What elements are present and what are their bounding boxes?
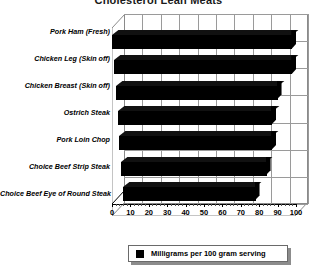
x-axis-minor-tick (267, 204, 268, 206)
x-axis-minor-tick (160, 204, 161, 206)
x-axis-tick (241, 204, 242, 207)
bar (116, 81, 284, 100)
x-axis-minor-tick (215, 204, 216, 206)
x-axis-minor-tick (248, 204, 249, 206)
bar-front-face (112, 35, 292, 49)
bar (112, 30, 298, 49)
bar-front-face (114, 60, 292, 74)
bar (119, 131, 278, 150)
x-axis-minor-tick (175, 204, 176, 206)
category-axis-labels: Pork Ham (Fresh)Chicken Leg (Skin off)Ch… (0, 18, 112, 212)
x-axis-minor-tick (274, 204, 275, 206)
x-axis-minor-tick (208, 204, 209, 206)
bar (118, 106, 279, 125)
x-axis-tick (112, 204, 113, 207)
x-axis-origin-diagonal (112, 190, 126, 205)
x-axis-minor-tick (263, 204, 264, 206)
bar-end-cap (266, 157, 271, 176)
plot-area (112, 14, 308, 216)
x-axis-minor-tick (156, 204, 157, 206)
x-axis-minor-tick (123, 204, 124, 206)
category-label: Ostrich Steak (0, 109, 110, 117)
x-axis-minor-tick (256, 204, 257, 206)
bar-front-face (121, 162, 266, 176)
x-axis-minor-tick (244, 204, 245, 206)
x-axis-minor-tick (197, 204, 198, 206)
x-axis-minor-tick (211, 204, 212, 206)
category-label: Chicken Breast (Skin off) (0, 82, 110, 90)
bar-front-face (119, 136, 272, 150)
x-axis-minor-tick (178, 204, 179, 206)
category-label: Choice Beef Strip Steak (0, 163, 110, 171)
x-axis-minor-tick (141, 204, 142, 206)
chart-legend: Milligrams per 100 gram serving (128, 245, 288, 262)
x-axis-minor-tick (285, 204, 286, 206)
bar-end-cap (291, 30, 296, 49)
x-axis-minor-tick (230, 204, 231, 206)
bar-end-cap (271, 106, 276, 125)
bar (121, 157, 272, 176)
x-axis-minor-tick (200, 204, 201, 206)
bars-layer (112, 14, 308, 216)
category-label: Choice Beef Eye of Round Steak (0, 190, 110, 198)
bar-end-cap (255, 182, 260, 201)
x-axis-minor-tick (182, 204, 183, 206)
x-axis-tick (204, 204, 205, 207)
x-axis-minor-tick (145, 204, 146, 206)
legend-swatch-icon (136, 250, 144, 258)
x-axis-minor-tick (134, 204, 135, 206)
category-label: Pork Ham (Fresh) (0, 28, 110, 36)
bar-end-cap (291, 55, 296, 74)
bar-end-cap (277, 81, 282, 100)
x-axis-tick-label: 100 (285, 208, 307, 217)
x-axis-minor-tick (270, 204, 271, 206)
bar-front-face (118, 111, 273, 125)
bar-front-face (123, 187, 255, 201)
x-axis-minor-tick (119, 204, 120, 206)
x-axis-minor-tick (171, 204, 172, 206)
x-axis-tick (296, 204, 297, 207)
bar-chart: Cholesterol Lean Meats Pork Ham (Fresh)C… (0, 0, 317, 277)
x-axis-minor-tick (116, 204, 117, 206)
x-axis-minor-tick (226, 204, 227, 206)
x-axis-tick (149, 204, 150, 207)
x-axis-minor-tick (189, 204, 190, 206)
x-axis-minor-tick (138, 204, 139, 206)
legend-label: Milligrams per 100 gram serving (151, 249, 266, 258)
x-axis-tick (130, 204, 131, 207)
chart-title: Cholesterol Lean Meats (0, 0, 317, 6)
bar-end-cap (271, 131, 276, 150)
bar-front-face (116, 86, 278, 100)
bar (114, 55, 298, 74)
x-axis-minor-tick (164, 204, 165, 206)
bar (123, 182, 261, 201)
x-axis-minor-tick (252, 204, 253, 206)
x-axis-minor-tick (292, 204, 293, 206)
x-axis-tick (222, 204, 223, 207)
category-label: Chicken Leg (Skin off) (0, 55, 110, 63)
x-axis-minor-tick (219, 204, 220, 206)
x-axis-minor-tick (127, 204, 128, 206)
x-axis-minor-tick (281, 204, 282, 206)
x-axis-tick (167, 204, 168, 207)
gridline-vertical (308, 14, 309, 204)
x-axis-minor-tick (237, 204, 238, 206)
x-axis-tick (278, 204, 279, 207)
x-axis-minor-tick (193, 204, 194, 206)
category-label: Pork Loin Chop (0, 136, 110, 144)
x-axis-minor-tick (289, 204, 290, 206)
x-axis-minor-tick (233, 204, 234, 206)
x-axis-tick (186, 204, 187, 207)
x-axis-minor-tick (152, 204, 153, 206)
x-axis-tick (259, 204, 260, 207)
